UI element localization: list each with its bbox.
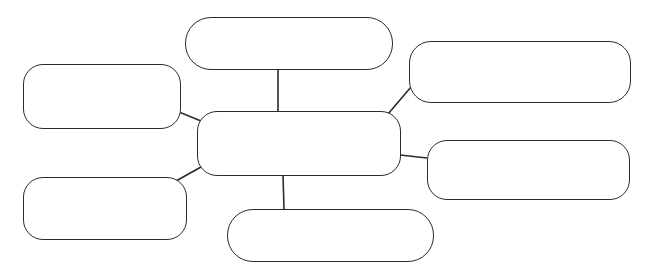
connector-right-bottom-to-center [400,155,427,158]
connector-left-top-to-center [179,112,201,121]
branch-node-top[interactable] [185,17,393,70]
connector-left-bottom-to-center [176,167,201,181]
branch-node-right-bottom[interactable] [427,140,630,200]
connector-top-right-to-center [388,87,411,114]
spider-diagram [0,0,652,277]
branch-node-top-right[interactable] [409,41,631,103]
connector-bottom-to-center [283,175,284,209]
branch-node-left-bottom[interactable] [23,177,187,240]
branch-node-bottom[interactable] [227,209,434,262]
branch-node-left-top[interactable] [23,64,181,129]
center-node[interactable] [197,111,401,176]
